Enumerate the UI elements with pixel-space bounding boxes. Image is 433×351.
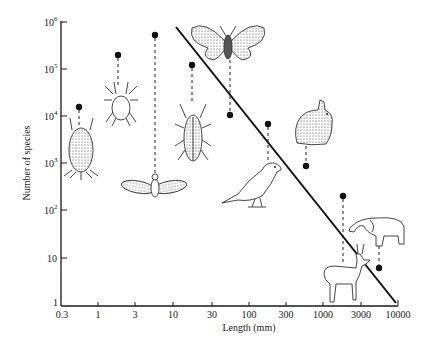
point-rotifer	[76, 104, 82, 110]
x-tick-300: 300	[279, 309, 294, 320]
x-tick-0.3: 0.3	[56, 309, 69, 320]
deer-icon	[324, 244, 370, 302]
point-beetle	[189, 62, 195, 68]
y-tick-1: 1	[53, 297, 58, 308]
x-axis-title: Length (mm)	[222, 322, 275, 334]
y-tick-1e6: 106	[44, 15, 58, 28]
rotifer-icon	[64, 118, 98, 180]
point-fly	[152, 32, 158, 38]
x-tick-3: 3	[133, 309, 138, 320]
y-tick-1e5: 105	[44, 62, 58, 75]
x-tick-10: 10	[168, 309, 178, 320]
y-axis-title: Number of species	[21, 125, 32, 200]
data-points	[76, 32, 382, 271]
moth-icon	[191, 26, 264, 60]
y-tick-labels: 106 105 104 103 102 10 1	[44, 15, 58, 308]
axes	[61, 21, 398, 306]
fly-icon	[120, 174, 188, 197]
point-rabbit	[303, 163, 309, 169]
y-tick-1e4: 104	[44, 109, 58, 122]
x-tick-3000: 3000	[351, 309, 371, 320]
x-tick-30: 30	[207, 309, 217, 320]
rabbit-icon	[296, 100, 333, 145]
x-tick-100: 100	[242, 309, 257, 320]
point-moth	[227, 112, 233, 118]
x-tick-labels: 0.3 1 3 10 30 100 300 1000 3000 10000	[56, 309, 411, 320]
x-tick-10000: 10000	[386, 309, 411, 320]
point-deer	[340, 193, 346, 199]
point-bird	[265, 121, 271, 127]
x-tick-1: 1	[96, 309, 101, 320]
elephant-icon	[349, 218, 404, 246]
y-tick-1e3: 103	[44, 156, 58, 169]
point-mite	[115, 52, 121, 58]
point-elephant	[376, 265, 382, 271]
beetle-icon	[175, 104, 211, 161]
y-tick-1e2: 102	[44, 203, 58, 216]
x-tick-1000: 1000	[313, 309, 333, 320]
bird-icon	[222, 163, 281, 207]
species-length-chart: 106 105 104 103 102 10 1 0.3 1 3 10 30 1…	[0, 0, 433, 351]
mite-icon	[104, 82, 138, 126]
y-tick-10: 10	[47, 253, 57, 264]
